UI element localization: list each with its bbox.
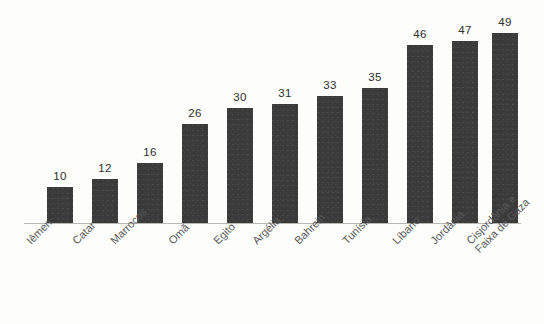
bar-value-label: 26 bbox=[188, 107, 201, 119]
bar-value-label: 49 bbox=[498, 16, 511, 28]
bar-value-label: 12 bbox=[98, 162, 111, 174]
bar-value-label: 33 bbox=[323, 79, 336, 91]
bar bbox=[407, 45, 433, 224]
bar-value-label: 47 bbox=[458, 24, 471, 36]
x-axis-labels: Iêmen Catar Marrocos Omã Egito Argélia B… bbox=[0, 224, 544, 324]
bar-value-label: 31 bbox=[278, 87, 291, 99]
x-axis-label: Egito bbox=[211, 220, 237, 246]
bar bbox=[452, 41, 478, 224]
bar-value-label: 46 bbox=[413, 28, 426, 40]
bar bbox=[47, 187, 73, 224]
x-axis-label-text: Omã bbox=[166, 221, 191, 246]
bar bbox=[317, 96, 343, 224]
x-axis-label-text: Egito bbox=[211, 220, 237, 246]
bar-value-label: 16 bbox=[143, 146, 156, 158]
bar bbox=[362, 88, 388, 224]
bar-chart: 10 12 16 26 30 31 33 35 bbox=[0, 0, 544, 324]
bar-value-label: 35 bbox=[368, 71, 381, 83]
bar bbox=[227, 108, 253, 224]
bar bbox=[182, 124, 208, 224]
bar bbox=[92, 179, 118, 224]
x-axis-label-text: Catar bbox=[70, 219, 98, 247]
bar bbox=[272, 104, 298, 224]
x-axis-label: Catar bbox=[70, 219, 98, 247]
x-axis-label: Omã bbox=[166, 221, 191, 246]
plot-area: 10 12 16 26 30 31 33 35 bbox=[0, 0, 544, 224]
bar-value-label: 10 bbox=[53, 170, 66, 182]
bar-value-label: 30 bbox=[233, 91, 246, 103]
